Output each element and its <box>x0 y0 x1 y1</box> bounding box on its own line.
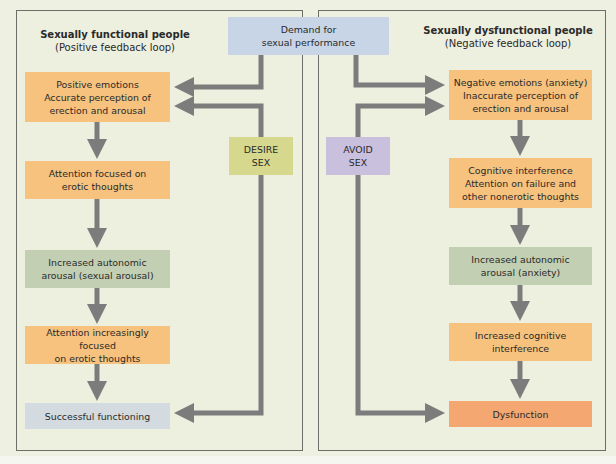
attention-increasingly-focused-box: Attention increasingly focused on erotic… <box>25 326 170 364</box>
left-panel-title: Sexually functional people (Positive fee… <box>40 28 190 54</box>
negative-emotions-box: Negative emotions (anxiety) Inaccurate p… <box>449 70 592 120</box>
increased-autonomic-anxiety-box: Increased autonomic arousal (anxiety) <box>449 247 592 285</box>
right-title-main: Sexually dysfunctional people <box>418 24 598 37</box>
dysfunction-box: Dysfunction <box>449 401 592 427</box>
positive-emotions-box: Positive emotions Accurate perception of… <box>25 72 170 122</box>
desire-sex-label: DESIRE SEX <box>229 137 293 175</box>
increased-autonomic-sexual-arousal-box: Increased autonomic arousal (sexual arou… <box>25 250 170 288</box>
avoid-sex-label: AVOID SEX <box>326 137 390 175</box>
left-title-sub: (Positive feedback loop) <box>40 41 190 54</box>
cognitive-interference-box: Cognitive interference Attention on fail… <box>449 158 592 208</box>
demand-for-sexual-performance-box: Demand for sexual performance <box>228 17 389 55</box>
right-title-sub: (Negative feedback loop) <box>418 37 598 50</box>
attention-focused-erotic-box: Attention focused on erotic thoughts <box>25 161 170 199</box>
increased-cognitive-interference-box: Increased cognitive interference <box>449 323 592 361</box>
page-bottom-band <box>0 456 616 464</box>
right-panel-title: Sexually dysfunctional people (Negative … <box>418 24 598 50</box>
left-title-main: Sexually functional people <box>40 28 190 41</box>
successful-functioning-box: Successful functioning <box>25 403 170 429</box>
